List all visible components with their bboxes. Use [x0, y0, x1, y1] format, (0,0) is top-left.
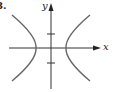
x-axis-label: x — [103, 42, 109, 52]
y-axis-arrow-icon — [49, 3, 54, 11]
y-axis-label: y — [42, 1, 48, 11]
x-axis-arrow-icon — [93, 46, 101, 51]
hyperbola-graph — [0, 0, 114, 92]
